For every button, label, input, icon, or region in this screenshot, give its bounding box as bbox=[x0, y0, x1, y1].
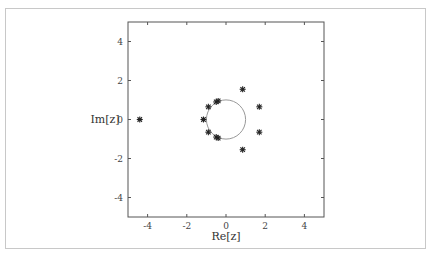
asterisk-marker bbox=[205, 104, 211, 110]
y-tick-label: 4 bbox=[117, 37, 123, 47]
asterisk-marker bbox=[200, 117, 206, 123]
y-tick-label: 2 bbox=[117, 76, 123, 86]
asterisk-marker bbox=[256, 129, 262, 135]
unit-circle bbox=[206, 100, 245, 139]
asterisk-marker bbox=[240, 86, 246, 92]
y-tick-label: -2 bbox=[114, 154, 123, 164]
data-points bbox=[137, 86, 263, 152]
x-tick-label: -2 bbox=[182, 221, 191, 231]
asterisk-marker bbox=[215, 135, 221, 141]
y-axis-label: Im[z] bbox=[90, 113, 119, 126]
x-tick-label: 4 bbox=[302, 221, 308, 231]
y-axis-ticks: 420-2-4 bbox=[114, 37, 324, 203]
y-tick-label: -4 bbox=[114, 193, 123, 203]
asterisk-marker bbox=[205, 129, 211, 135]
x-tick-label: 2 bbox=[262, 221, 268, 231]
asterisk-marker bbox=[137, 117, 143, 123]
x-axis-label: Re[z] bbox=[211, 230, 240, 243]
plot-area bbox=[128, 22, 324, 217]
x-axis-ticks: -4-2024 bbox=[143, 22, 307, 231]
asterisk-marker bbox=[256, 104, 262, 110]
asterisk-marker bbox=[240, 147, 246, 153]
scatter-plot: -4-2024 420-2-4 Re[z] Im[z] bbox=[0, 0, 432, 258]
x-tick-label: -4 bbox=[143, 221, 152, 231]
asterisk-marker bbox=[215, 98, 221, 104]
